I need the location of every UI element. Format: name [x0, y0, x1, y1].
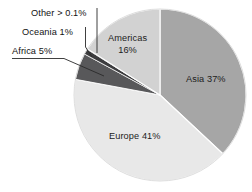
pie-callout-africa: Africa 5% [12, 46, 52, 57]
pie-label-americas-name: Americas [108, 33, 147, 43]
pie-label-americas-value: 16% [108, 45, 147, 57]
pie-slices [74, 9, 246, 181]
pie-label-americas: Americas 16% [108, 33, 147, 56]
pie-callout-other: Other > 0.1% [31, 8, 87, 19]
pie-chart-figure: Asia 37% Europe 41% Americas 16% Other >… [0, 0, 252, 192]
pie-label-asia: Asia 37% [186, 74, 226, 85]
pie-label-europe: Europe 41% [109, 131, 161, 142]
pie-callout-oceania: Oceania 1% [22, 27, 73, 38]
